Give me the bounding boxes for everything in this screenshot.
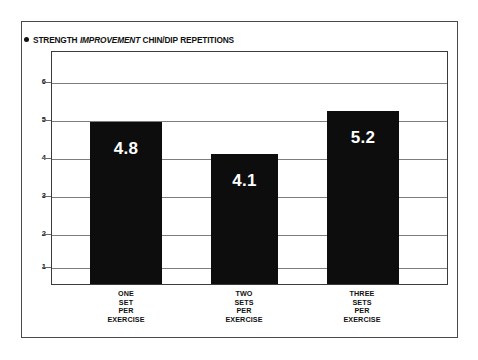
x-category-label-three-sets: THREE SETS PER EXERCISE: [321, 290, 403, 324]
bar-one-set-per-exercise[interactable]: 4.8: [90, 122, 162, 284]
x-category-line-3-4: EXERCISE: [321, 316, 403, 325]
chart-title: STRENGTH IMPROVEMENT CHIN/DIP REPETITION…: [24, 33, 236, 46]
bar-value-label-2: 4.1: [211, 172, 278, 189]
y-tick-mark-2: [42, 234, 51, 235]
bullet-icon: [24, 37, 29, 42]
title-word-chindip: CHIN/DIP: [143, 35, 178, 45]
plot-area: 4.8 4.1 5.2: [51, 51, 448, 285]
title-word-repetitions: REPETITIONS: [180, 35, 234, 45]
y-tick-mark-4: [42, 158, 51, 159]
bar-three-sets-per-exercise[interactable]: 5.2: [327, 111, 399, 284]
bar-two-sets-per-exercise[interactable]: 4.1: [211, 154, 278, 284]
x-category-line-1-4: EXERCISE: [85, 316, 167, 325]
y-tick-mark-1: [42, 267, 51, 268]
x-category-label-two-sets: TWO SETS PER EXERCISE: [203, 290, 285, 324]
title-word-strength: STRENGTH: [33, 35, 77, 45]
x-category-label-one-set: ONE SET PER EXERCISE: [85, 290, 167, 324]
x-category-line-2-4: EXERCISE: [203, 316, 285, 325]
y-axis-labels: 6 5 4 3 2 1: [22, 51, 46, 285]
y-tick-mark-6: [42, 82, 51, 83]
plot-inner: 4.8 4.1 5.2: [52, 52, 447, 284]
y-tick-mark-5: [42, 120, 51, 121]
y-tick-mark-3: [42, 196, 51, 197]
gridline-6: [52, 83, 447, 84]
bar-value-label-3: 5.2: [327, 129, 399, 146]
chart-canvas: STRENGTH IMPROVEMENT CHIN/DIP REPETITION…: [0, 0, 478, 360]
title-word-improvement: IMPROVEMENT: [80, 35, 140, 45]
bar-value-label-1: 4.8: [90, 140, 162, 157]
